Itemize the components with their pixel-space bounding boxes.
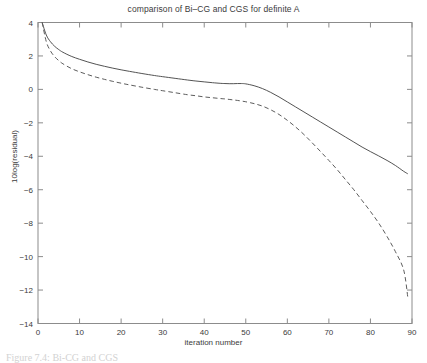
- x-axis-ticks: 0102030405060708090: [36, 23, 417, 337]
- svg-text:−2: −2: [24, 119, 34, 128]
- x-axis-label: iteration number: [0, 338, 427, 347]
- data-series-layer: [42, 23, 408, 298]
- series-line-cgs: [42, 23, 408, 298]
- svg-text:−14: −14: [19, 320, 33, 329]
- y-axis-ticks: 420−2−4−6−8−10−12−14: [19, 19, 412, 329]
- svg-text:0: 0: [29, 85, 34, 94]
- svg-text:−4: −4: [24, 152, 34, 161]
- svg-text:−12: −12: [19, 286, 33, 295]
- svg-text:20: 20: [117, 328, 126, 337]
- svg-text:−10: −10: [19, 253, 33, 262]
- figure-container: comparison of Bi–CG and CGS for definite…: [0, 0, 427, 363]
- svg-text:50: 50: [241, 328, 250, 337]
- svg-text:80: 80: [366, 328, 375, 337]
- svg-text:30: 30: [158, 328, 167, 337]
- svg-text:90: 90: [408, 328, 417, 337]
- svg-text:70: 70: [324, 328, 333, 337]
- figure-caption: Figure 7.4: Bi-CG and CGS: [6, 352, 306, 363]
- svg-text:10: 10: [75, 328, 84, 337]
- svg-text:60: 60: [283, 328, 292, 337]
- svg-text:2: 2: [29, 52, 34, 61]
- axes-frame: [38, 23, 412, 324]
- svg-text:0: 0: [36, 328, 41, 337]
- series-line-bi-cg: [42, 23, 408, 174]
- svg-text:40: 40: [200, 328, 209, 337]
- svg-text:−6: −6: [24, 186, 34, 195]
- chart-canvas: 420−2−4−6−8−10−12−14 0102030405060708090: [0, 0, 427, 363]
- svg-text:−8: −8: [24, 219, 34, 228]
- svg-text:4: 4: [29, 19, 34, 28]
- y-axis-label: 10log(residual): [10, 112, 19, 202]
